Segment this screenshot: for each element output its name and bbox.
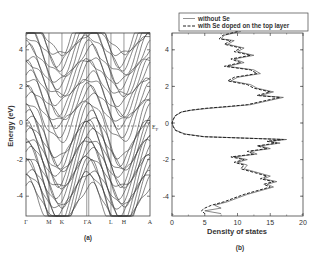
- dos-x-tick-label: 15: [266, 219, 274, 226]
- band-y-tick-label: 2: [19, 83, 23, 90]
- dos-x-tick-label: 5: [203, 219, 207, 226]
- band-y-tick-label: -4: [17, 192, 23, 199]
- kpoint-labels: ΓMKΓALHA: [24, 219, 153, 225]
- band-y-axis-title: Energy (eV): [6, 105, 15, 147]
- dos-curve-with-se: [172, 32, 283, 214]
- dos-y-tick-label: 0: [165, 120, 169, 127]
- dos-x-tick-label: 10: [234, 219, 242, 226]
- kpoint-label: A: [148, 219, 153, 225]
- dos-y-tick-label: -2: [163, 156, 169, 163]
- kpoint-label: K: [60, 219, 65, 225]
- dos-y-tick-label: 2: [165, 83, 169, 90]
- kpoint-label: H: [122, 219, 127, 225]
- fermi-level-label: EF: [152, 124, 159, 132]
- band-line: [26, 170, 150, 216]
- band-y-tick-label: 0: [19, 119, 23, 126]
- dos-ticks: -4-202405101520: [163, 33, 307, 226]
- band-line: [26, 120, 150, 188]
- band-y-tick-label: -2: [17, 156, 23, 163]
- panel-a-label: (a): [84, 234, 92, 242]
- band-line: [26, 170, 150, 216]
- figure: EF -4-2024 Energy (eV) ΓMKΓALHA (a) -4-2…: [0, 0, 318, 257]
- dos-y-tick-label: -4: [163, 193, 169, 200]
- band-line: [26, 92, 150, 143]
- dos-x-tick-label: 0: [170, 219, 174, 226]
- dos-x-tick-label: 20: [299, 219, 307, 226]
- kpoint-label: ΓA: [84, 219, 92, 225]
- kpoint-label: M: [46, 219, 52, 225]
- legend-label-without-se: without Se: [197, 15, 230, 22]
- band-line: [26, 70, 150, 118]
- band-lines: [26, 33, 150, 216]
- kpoint-label: Γ: [24, 219, 28, 225]
- panel-b-label: (b): [236, 244, 244, 252]
- dos-x-axis-title: Density of states: [207, 227, 267, 236]
- dos-y-tick-label: 4: [165, 46, 169, 53]
- legend: without Se with Se doped on the top laye…: [179, 13, 308, 31]
- kpoint-label: L: [109, 219, 113, 225]
- dos-panel: -4-202405101520 Density of states (b) wi…: [163, 13, 308, 252]
- legend-label-with-se: with Se doped on the top layer: [197, 22, 290, 30]
- band-y-tick-label: 4: [19, 46, 23, 53]
- band-structure-panel: EF -4-2024 Energy (eV) ΓMKΓALHA (a): [6, 33, 159, 242]
